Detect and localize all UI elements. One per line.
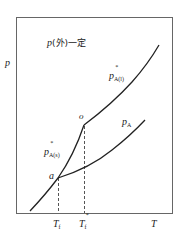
label-star: * — [50, 140, 53, 146]
label-sub: A — [127, 122, 131, 128]
liquid-vapor-curve-label: p*A(l) — [109, 71, 124, 82]
label-sub: A(l) — [114, 76, 124, 82]
tick-star: * — [86, 212, 89, 218]
label-sub: A(s) — [49, 152, 60, 158]
solution-vapor-curve — [58, 120, 145, 178]
solution-curve-label: pA — [122, 117, 131, 128]
solid-vapor-curve-label: p*A(s) — [44, 147, 60, 158]
title-condition-text: (外)一定 — [52, 38, 86, 48]
point-o-label: o — [79, 112, 84, 121]
x-axis-label: T — [151, 219, 157, 229]
y-axis-label: p — [5, 58, 10, 68]
tick-sub: f — [85, 224, 87, 230]
plot-frame — [17, 18, 173, 214]
tick-tf-star: T*f — [79, 219, 87, 230]
tick-sub: f — [59, 224, 61, 230]
tick-tf: Tf — [53, 219, 61, 230]
liquid-vapor-curve — [84, 45, 159, 125]
condition-title: p(外)一定 — [47, 38, 86, 48]
label-star: * — [115, 64, 118, 70]
phase-diagram-canvas — [0, 0, 187, 242]
solid-vapor-curve — [30, 125, 84, 211]
point-a-label: a — [49, 171, 54, 181]
